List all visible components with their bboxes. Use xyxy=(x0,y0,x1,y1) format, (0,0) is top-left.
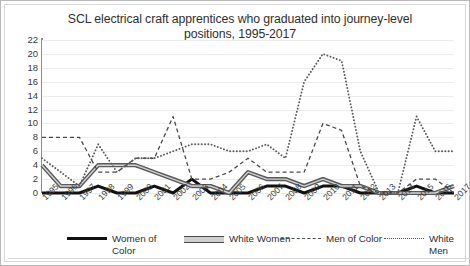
chart-title: SCL electrical craft apprentices who gra… xyxy=(45,12,435,41)
legend-label: White Men xyxy=(429,233,463,256)
y-axis-tick-20: 20 xyxy=(8,49,38,59)
y-axis-tick-8: 8 xyxy=(8,132,38,142)
legend-item-white-men[interactable]: White Men xyxy=(384,233,463,256)
x-axis-tick-2017: 2017 xyxy=(452,181,470,202)
y-axis-tick-labels: 2220181614121086420 xyxy=(5,40,38,193)
x-axis-tick-labels: 1995199619971998199920002001200220032004… xyxy=(42,195,454,235)
y-axis-tick-22: 22 xyxy=(8,35,38,45)
solid-line-swatch xyxy=(67,233,107,244)
plot-area xyxy=(42,40,454,193)
y-axis-tick-18: 18 xyxy=(8,63,38,73)
chart-legend: Women of ColorWhite WomenMen of ColorWhi… xyxy=(9,233,463,265)
legend-item-women-of-color[interactable]: Women of Color xyxy=(67,233,182,256)
y-axis-tick-2: 2 xyxy=(8,174,38,184)
y-axis-tick-16: 16 xyxy=(8,77,38,87)
y-axis-tick-10: 10 xyxy=(8,118,38,128)
chart-inner-border: SCL electrical craft apprentices who gra… xyxy=(4,4,466,262)
double-line-swatch xyxy=(184,233,224,244)
legend-label: Men of Color xyxy=(326,233,382,245)
y-axis-tick-4: 4 xyxy=(8,160,38,170)
legend-item-white-women[interactable]: White Women xyxy=(184,233,290,245)
dashed-line-swatch-glyph xyxy=(281,238,321,239)
double-line-swatch-glyph xyxy=(184,236,224,243)
y-axis-tick-12: 12 xyxy=(8,105,38,115)
solid-line-swatch-glyph xyxy=(67,237,107,240)
legend-item-men-of-color[interactable]: Men of Color xyxy=(281,233,382,245)
legend-divider xyxy=(8,258,470,259)
dotted-line-swatch xyxy=(384,233,424,244)
legend-label: Women of Color xyxy=(112,233,182,256)
dotted-line-swatch-glyph xyxy=(384,238,424,239)
y-axis-tick-14: 14 xyxy=(8,91,38,101)
y-axis-tick-0: 0 xyxy=(8,188,38,198)
y-axis-tick-6: 6 xyxy=(8,146,38,156)
series-lines xyxy=(42,40,454,193)
dashed-line-swatch xyxy=(281,233,321,244)
series-line-men-of-color xyxy=(42,117,454,194)
chart-frame: SCL electrical craft apprentices who gra… xyxy=(0,0,470,266)
